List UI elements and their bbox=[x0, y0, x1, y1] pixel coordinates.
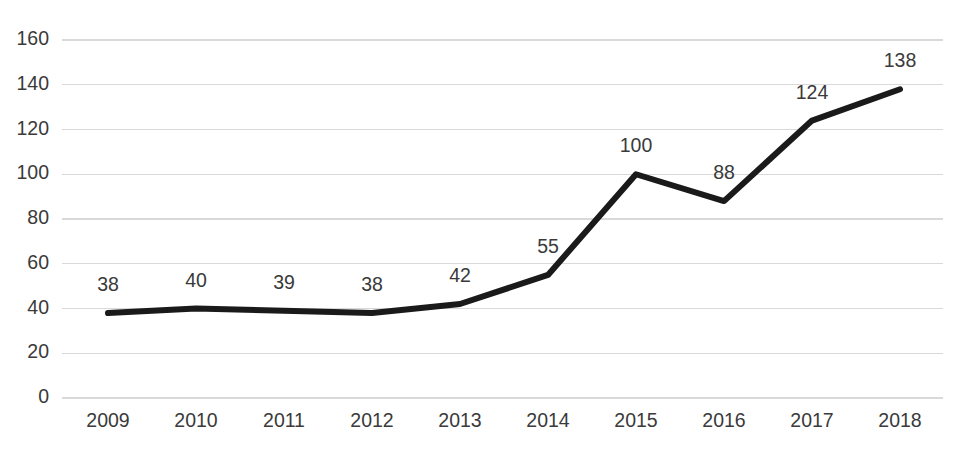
data-point-label: 40 bbox=[185, 269, 207, 291]
data-point-label: 55 bbox=[537, 235, 559, 257]
y-tick-label: 160 bbox=[16, 27, 49, 49]
data-point-label: 38 bbox=[97, 273, 119, 295]
data-point-label: 42 bbox=[449, 264, 471, 286]
data-point-label: 38 bbox=[361, 273, 383, 295]
chart-background bbox=[0, 0, 968, 461]
y-tick-label: 100 bbox=[16, 161, 49, 183]
y-tick-label: 0 bbox=[38, 385, 49, 407]
data-point-label: 124 bbox=[796, 81, 829, 103]
data-point-label: 39 bbox=[273, 271, 295, 293]
y-tick-label: 140 bbox=[16, 72, 49, 94]
x-tick-label: 2014 bbox=[526, 409, 570, 431]
x-tick-label: 2011 bbox=[263, 409, 305, 431]
y-tick-label: 20 bbox=[27, 340, 49, 362]
line-chart: 020406080100120140160 200920102011201220… bbox=[0, 0, 968, 461]
x-tick-label: 2009 bbox=[86, 409, 129, 431]
x-tick-label: 2015 bbox=[614, 409, 658, 431]
x-tick-label: 2013 bbox=[438, 409, 481, 431]
x-tick-label: 2016 bbox=[702, 409, 745, 431]
data-point-label: 138 bbox=[884, 49, 917, 71]
chart-canvas: 020406080100120140160 200920102011201220… bbox=[0, 0, 968, 461]
x-tick-label: 2017 bbox=[790, 409, 833, 431]
x-tick-label: 2012 bbox=[350, 409, 393, 431]
data-point-label: 88 bbox=[713, 161, 735, 183]
y-tick-label: 80 bbox=[27, 206, 49, 228]
data-point-label: 100 bbox=[620, 134, 653, 156]
x-tick-label: 2010 bbox=[174, 409, 218, 431]
x-tick-label: 2018 bbox=[878, 409, 921, 431]
y-tick-label: 40 bbox=[27, 296, 49, 318]
y-tick-label: 60 bbox=[27, 251, 49, 273]
y-tick-label: 120 bbox=[16, 117, 49, 139]
